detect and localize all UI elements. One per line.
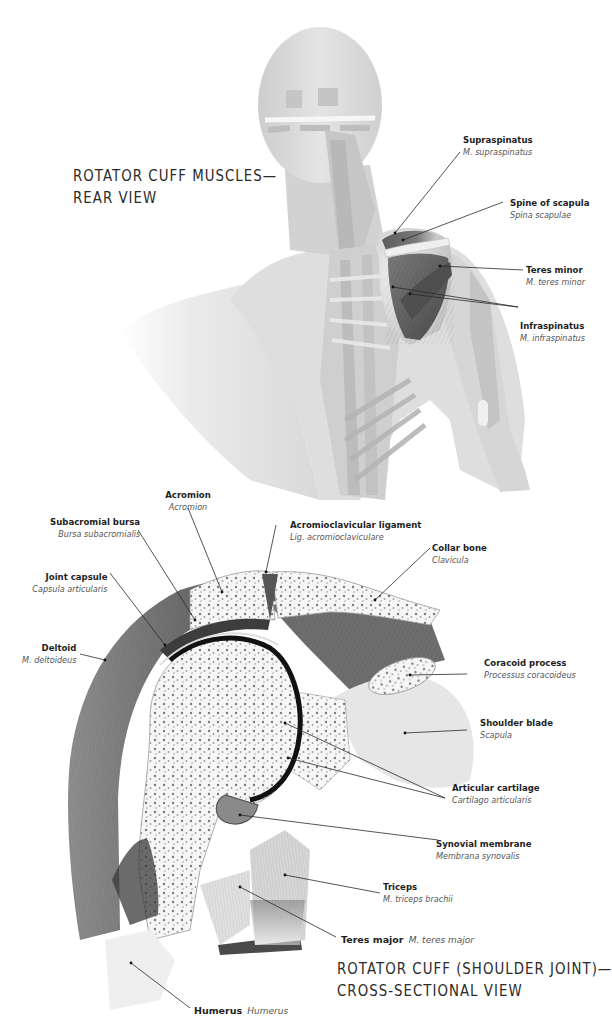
label-name: Articular cartilage: [452, 781, 540, 794]
label-name: Deltoid: [22, 641, 76, 654]
label-joint-capsule: Joint capsule Capsula articularis: [24, 570, 108, 596]
label-shoulder-blade: Shoulder blade Scapula: [480, 716, 561, 742]
title-line-1: ROTATOR CUFF (SHOULDER JOINT)—: [337, 958, 612, 980]
label-latin: Humerus: [247, 1006, 288, 1016]
label-latin: M. infraspinatus: [520, 332, 585, 345]
label-acromion: Acromion Acromion: [158, 488, 218, 514]
label-name: Teres major: [341, 934, 404, 945]
label-name: Subacromial bursa: [50, 515, 140, 528]
label-latin: Processus coracoideus: [484, 669, 576, 682]
label-latin: M. teres minor: [526, 276, 585, 289]
label-name: Acromioclavicular ligament: [290, 518, 421, 531]
label-name: Joint capsule: [33, 570, 108, 583]
label-triceps: Triceps M. triceps brachii: [383, 880, 461, 906]
label-latin: Membrana synovalis: [436, 850, 531, 863]
figure-title-cross-section: ROTATOR CUFF (SHOULDER JOINT)— CROSS-SEC…: [337, 958, 612, 1002]
label-name: Supraspinatus: [463, 133, 533, 146]
title-line-1: ROTATOR CUFF MUSCLES—: [73, 165, 277, 187]
label-name: Synovial membrane: [436, 837, 531, 850]
label-deltoid: Deltoid M. deltoideus: [16, 641, 76, 667]
figure-title-rear-view: ROTATOR CUFF MUSCLES— REAR VIEW: [73, 165, 277, 209]
label-collar-bone: Collar bone Clavicula: [432, 541, 493, 567]
label-name: Acromion: [161, 488, 215, 501]
rear-view-figure: [120, 27, 530, 500]
label-latin: M. triceps brachii: [383, 893, 453, 906]
label-name: Triceps: [383, 880, 453, 893]
label-teres-major: Teres major M. teres major: [341, 931, 474, 947]
label-name: Coracoid process: [484, 656, 576, 669]
label-latin: Cartilago articularis: [452, 794, 540, 807]
label-latin: Lig. acromioclaviculare: [290, 531, 421, 544]
label-latin: Acromion: [161, 501, 215, 514]
label-subacromial-bursa: Subacromial bursa Bursa subacromialis: [40, 515, 140, 541]
title-line-2: REAR VIEW: [73, 187, 277, 209]
label-articular-cartilage: Articular cartilage Cartilago articulari…: [452, 781, 549, 807]
label-latin: M. deltoideus: [22, 654, 76, 667]
label-latin: Scapula: [480, 729, 553, 742]
label-acromioclavicular-ligament: Acromioclavicular ligament Lig. acromioc…: [290, 518, 436, 544]
label-latin: Clavicula: [432, 554, 487, 567]
label-name: Teres minor: [526, 263, 585, 276]
label-name: Spine of scapula: [510, 196, 589, 209]
label-name: Shoulder blade: [480, 716, 553, 729]
label-spine-of-scapula: Spine of scapula Spina scapulae: [510, 196, 598, 222]
label-name: Infraspinatus: [520, 319, 585, 332]
label-name: Collar bone: [432, 541, 487, 554]
label-latin: Capsula articularis: [33, 583, 108, 596]
label-synovial-membrane: Synovial membrane Membrana synovalis: [436, 837, 542, 863]
label-humerus: Humerus Humerus: [194, 1002, 288, 1018]
label-name: Humerus: [194, 1005, 242, 1016]
label-teres-minor: Teres minor M. teres minor: [526, 263, 592, 289]
title-line-2: CROSS-SECTIONAL VIEW: [337, 980, 612, 1002]
label-latin: M. supraspinatus: [463, 146, 533, 159]
label-coracoid-process: Coracoid process Processus coracoideus: [484, 656, 586, 682]
label-latin: Spina scapulae: [510, 209, 589, 222]
label-infraspinatus: Infraspinatus M. infraspinatus: [520, 319, 592, 345]
label-latin: Bursa subacromialis: [50, 528, 140, 541]
label-supraspinatus: Supraspinatus M. supraspinatus: [463, 133, 540, 159]
label-latin: M. teres major: [409, 935, 474, 945]
